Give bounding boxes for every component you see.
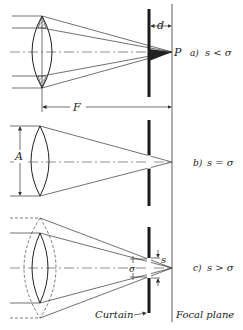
focal-plane-label: Focal plane <box>175 309 234 320</box>
panel-b: A b) s = σ <box>10 120 235 206</box>
curtain-label: Curtain <box>95 309 134 320</box>
panel-b-caption: b) <box>193 158 203 168</box>
panel-b-condition: s = σ <box>207 157 235 168</box>
sigma-label: σ <box>129 264 136 274</box>
point-p-label: P <box>173 46 182 59</box>
a-label: A <box>14 150 23 163</box>
lens <box>31 126 49 196</box>
panel-a-caption: a) <box>190 48 199 58</box>
f-label: F <box>72 101 81 114</box>
s-label: s <box>161 254 166 265</box>
panel-a: d P a) s < σ F <box>10 9 233 114</box>
panel-c-caption: c) <box>193 263 202 273</box>
panel-c-condition: s > σ <box>207 262 235 273</box>
optics-diagram: d P a) s < σ F A b) s = σ <box>0 0 243 330</box>
panel-a-condition: s < σ <box>205 47 233 58</box>
panel-c: σ s c) s > σ Curtain Focal plane <box>10 218 235 320</box>
d-label: d <box>157 19 164 32</box>
